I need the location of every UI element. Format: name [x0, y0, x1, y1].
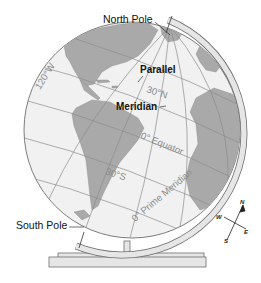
south-pole-label: South Pole — [16, 220, 67, 231]
parallel-label: Parallel — [140, 65, 176, 75]
compass-w: W — [216, 214, 223, 220]
compass-s: S — [224, 238, 228, 244]
compass-n: N — [240, 199, 245, 205]
globe-diagram: 120°W 30°N 0° Equator 30°S 0° Prime Meri… — [0, 0, 261, 283]
meridian-label: Meridian — [116, 102, 157, 112]
compass-e: E — [244, 229, 249, 235]
compass-rose — [224, 205, 246, 240]
globe-illustration: 120°W 30°N 0° Equator 30°S 0° Prime Meri… — [0, 0, 261, 283]
north-pole-label: North Pole — [103, 14, 153, 25]
